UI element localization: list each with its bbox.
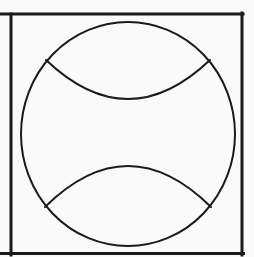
ball-outline (21, 22, 235, 246)
bottom-seam-curve (45, 166, 211, 207)
ball-diagram (0, 0, 254, 257)
top-seam-curve (46, 60, 210, 99)
diagram-canvas (0, 0, 254, 257)
